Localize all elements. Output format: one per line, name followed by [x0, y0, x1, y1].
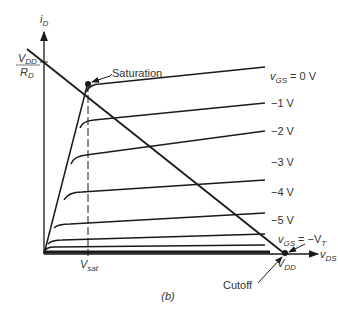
curve-label-vt: vGS = −VT [278, 233, 327, 248]
cutoff-label: Cutoff [223, 279, 253, 291]
y-intercept-denominator: RD [20, 66, 34, 80]
curve-vgs-m2 [71, 131, 265, 164]
vsat-label: Vsat [80, 258, 99, 273]
curve-vgs-m4 [54, 213, 265, 228]
x-axis-label: vDS [320, 248, 337, 263]
curve-label-m1v: −1 V [271, 97, 295, 109]
figure-caption: (b) [161, 290, 175, 302]
jfet-characteristics-diagram: Saturation Cutoff iD vDS VDD RD VDD Vsat… [0, 0, 338, 311]
curve-label-m3v: −3 V [271, 156, 295, 168]
x-intercept-label: VDD [277, 257, 296, 272]
curve-vgs-m3 [64, 180, 265, 200]
cutoff-point [282, 250, 288, 256]
saturation-pointer [92, 76, 110, 82]
curve-vgs-m1 [80, 103, 265, 128]
curve-label-m5v: −5 V [271, 214, 295, 226]
saturation-locus [44, 82, 88, 254]
curve-vgs-m5 [48, 234, 265, 244]
characteristic-curves [44, 67, 265, 252]
y-axis-label: iD [40, 13, 48, 28]
curve-label-0v: vGS = 0 V [270, 70, 317, 85]
saturation-point [85, 81, 91, 87]
saturation-label: Saturation [112, 67, 162, 79]
load-line [27, 49, 285, 254]
curve-label-m2v: −2 V [271, 125, 295, 137]
curve-label-m4v: −4 V [271, 186, 295, 198]
